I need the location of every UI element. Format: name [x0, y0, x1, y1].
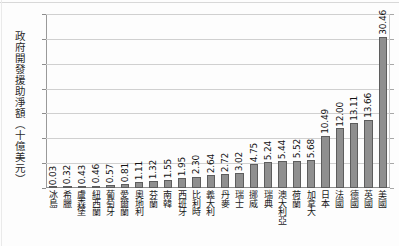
bar-group[interactable]: 12.00 — [336, 14, 344, 188]
bar-group[interactable]: 1.55 — [164, 14, 172, 188]
bar-group[interactable]: 2.64 — [207, 14, 215, 188]
y-tick-mark-right — [390, 89, 394, 90]
bar[interactable] — [178, 178, 186, 188]
category-label: 冰島 — [48, 190, 57, 207]
category-label: 美國 — [378, 190, 387, 207]
bar-value-label: 1.11 — [135, 161, 144, 180]
bar-group[interactable]: 5.68 — [307, 14, 315, 188]
bar-group[interactable]: 5.52 — [293, 14, 301, 188]
bar-value-label: 0.03 — [49, 166, 58, 185]
category-label: 澳大利亞 — [278, 190, 287, 224]
bar[interactable] — [78, 186, 86, 188]
bar-value-label: 2.30 — [192, 155, 201, 174]
category-label: 瑞士 — [235, 190, 244, 207]
category-label: 比利時 — [192, 190, 201, 216]
bar-group[interactable]: 1.11 — [135, 14, 143, 188]
bar-group[interactable]: 1.32 — [149, 14, 157, 188]
y-axis-title: 政府開發援助淨額（十億美元） — [2, 8, 24, 208]
bar-value-label: 0.81 — [120, 163, 129, 182]
bar[interactable] — [379, 37, 387, 188]
bar[interactable] — [149, 181, 157, 188]
bar-value-label: 13.11 — [350, 96, 359, 121]
bar-group[interactable]: 0.57 — [106, 14, 114, 188]
bar[interactable] — [207, 175, 215, 188]
bar[interactable] — [92, 186, 100, 188]
category-label: 義大利 — [206, 190, 215, 216]
bar-group[interactable]: 0.46 — [92, 14, 100, 188]
bar-value-label: 10.49 — [321, 109, 330, 134]
bar[interactable] — [121, 184, 129, 188]
category-label: 加拿大 — [306, 190, 315, 216]
bar-value-label: 5.24 — [264, 141, 273, 160]
bar-group[interactable]: 3.02 — [235, 14, 243, 188]
bar-group[interactable]: 0.32 — [63, 14, 71, 188]
bar-value-label: 0.46 — [92, 164, 101, 183]
y-tick-mark-right — [390, 113, 394, 114]
bar[interactable] — [63, 186, 71, 188]
category-label: 葡萄牙 — [106, 190, 115, 216]
category-label: 日本 — [321, 190, 330, 207]
bar-group[interactable]: 5.24 — [264, 14, 272, 188]
bar[interactable] — [364, 120, 372, 188]
category-label: 南韓 — [163, 190, 172, 207]
bar-value-label: 5.68 — [307, 139, 316, 158]
bar[interactable] — [135, 182, 143, 188]
bar-value-label: 2.64 — [206, 154, 215, 173]
bar[interactable] — [106, 185, 114, 188]
bar-value-label: 12.00 — [335, 102, 344, 127]
y-tick-mark-right — [390, 39, 394, 40]
bar-value-label: 1.95 — [178, 157, 187, 176]
bar-group[interactable]: 13.11 — [350, 14, 358, 188]
bar-group[interactable]: 0.03 — [49, 14, 57, 188]
category-label: 西班牙 — [177, 190, 186, 216]
bar-group[interactable]: 0.43 — [78, 14, 86, 188]
bar[interactable] — [264, 162, 272, 188]
bar-group[interactable]: 30.46 — [379, 14, 387, 188]
bar-group[interactable]: 4.75 — [250, 14, 258, 188]
category-label: 法國 — [335, 190, 344, 207]
category-label: 荷蘭 — [292, 190, 301, 207]
y-tick-mark — [42, 188, 46, 189]
bar[interactable] — [293, 161, 301, 188]
y-tick-mark-right — [390, 163, 394, 164]
bar[interactable] — [221, 174, 229, 188]
bar[interactable] — [49, 186, 57, 188]
bar-group[interactable]: 10.49 — [321, 14, 329, 188]
y-tick-mark-right — [390, 138, 394, 139]
x-axis-category-labels: 冰島希臘盧森堡紐西蘭葡萄牙愛爾蘭奧地利芬蘭南韓西班牙比利時義大利丹麥瑞士挪威瑞典… — [46, 190, 390, 244]
bar-value-label: 30.46 — [378, 10, 387, 35]
category-label: 希臘 — [63, 190, 72, 207]
category-label: 芬蘭 — [149, 190, 158, 207]
bar[interactable] — [250, 164, 258, 188]
bar[interactable] — [336, 128, 344, 188]
bar-group[interactable]: 2.72 — [221, 14, 229, 188]
bar-group[interactable]: 0.81 — [121, 14, 129, 188]
bar[interactable] — [350, 123, 358, 188]
category-label: 盧森堡 — [77, 190, 86, 216]
bar-group[interactable]: 13.66 — [364, 14, 372, 188]
category-label: 丹麥 — [220, 190, 229, 207]
bar-series: 0.030.320.430.460.570.811.111.321.551.95… — [46, 14, 390, 188]
bar-value-label: 0.43 — [77, 165, 86, 184]
bar-group[interactable]: 5.44 — [278, 14, 286, 188]
bar-value-label: 1.32 — [149, 160, 158, 179]
bar[interactable] — [278, 161, 286, 188]
bar[interactable] — [192, 177, 200, 188]
bar[interactable] — [164, 180, 172, 188]
bar-value-label: 5.44 — [278, 140, 287, 159]
bar[interactable] — [321, 136, 329, 188]
bar[interactable] — [235, 173, 243, 188]
bar-value-label: 0.32 — [63, 165, 72, 184]
bar-group[interactable]: 2.30 — [192, 14, 200, 188]
bar-value-label: 2.72 — [221, 153, 230, 172]
y-tick-mark-right — [390, 14, 394, 15]
category-label: 德國 — [349, 190, 358, 207]
bar-value-label: 3.02 — [235, 152, 244, 171]
plot-area: 0.030.320.430.460.570.811.111.321.551.95… — [46, 14, 390, 188]
bar[interactable] — [307, 160, 315, 188]
bar-value-label: 1.55 — [163, 159, 172, 178]
category-label: 英國 — [364, 190, 373, 207]
category-label: 挪威 — [249, 190, 258, 207]
bar-group[interactable]: 1.95 — [178, 14, 186, 188]
category-label: 愛爾蘭 — [120, 190, 129, 216]
